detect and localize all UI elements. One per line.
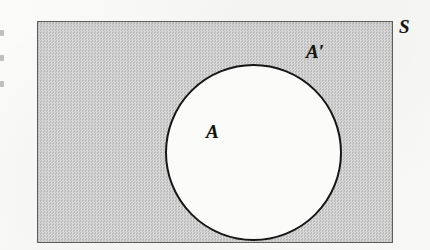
- universal-set-label: S: [399, 17, 410, 36]
- set-a-circle: [165, 64, 342, 241]
- complement-label: A′: [306, 42, 324, 61]
- set-a-label: A: [206, 122, 219, 141]
- margin-glyph-fragment: [0, 30, 4, 36]
- margin-glyph-fragments: [0, 28, 9, 90]
- venn-diagram-figure: S A′ A: [0, 0, 430, 250]
- margin-glyph-fragment: [0, 81, 4, 87]
- margin-glyph-fragment: [0, 55, 4, 61]
